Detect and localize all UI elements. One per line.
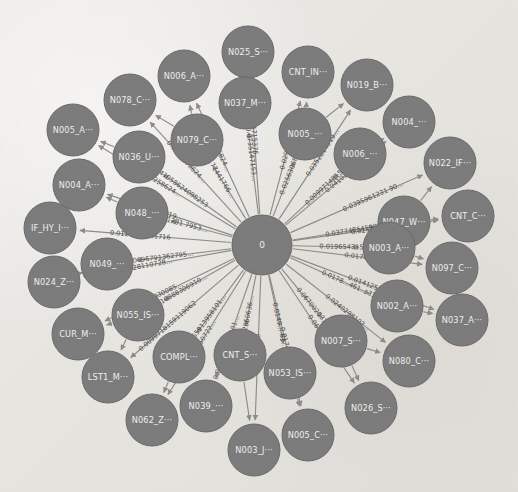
node-label: CNT_IN··· (289, 67, 328, 77)
graph-node[interactable]: N055_IS··· (112, 289, 164, 341)
graph-node[interactable]: N022_IF··· (424, 137, 476, 189)
graph-edge (106, 197, 117, 202)
node-label: N080_C··· (389, 356, 430, 366)
graph-node[interactable]: N025_S··· (222, 26, 274, 78)
graph-edge (107, 323, 113, 325)
node-label: CNT_C··· (450, 211, 486, 221)
graph-node[interactable]: N003_J··· (228, 424, 280, 476)
node-label: N039_··· (189, 401, 224, 411)
node-label: N053_IS··· (269, 368, 312, 378)
node-label: 0 (259, 240, 265, 250)
graph-edge (190, 105, 192, 113)
graph-node[interactable]: N002_A··· (371, 280, 423, 332)
node-label: N005_··· (288, 129, 323, 139)
graph-node[interactable]: CNT_S··· (214, 329, 266, 381)
node-label: N006_A··· (164, 71, 205, 81)
node-label: N005_A··· (53, 125, 94, 135)
graph-node[interactable]: N005_C··· (282, 409, 334, 461)
graph-edge (164, 382, 169, 393)
graph-node[interactable]: N037_M··· (219, 77, 271, 129)
graph-edge (156, 115, 174, 126)
graph-node[interactable]: N024_Z··· (28, 256, 80, 308)
graph-node[interactable]: N004_··· (383, 96, 435, 148)
graph-edge (121, 339, 126, 350)
node-label: N005_C··· (288, 430, 329, 440)
graph-node[interactable]: N079_C··· (171, 114, 223, 166)
graph-edge (326, 104, 343, 118)
node-label: N022_IF··· (429, 158, 471, 168)
graph-node[interactable]: LST1_M··· (82, 351, 134, 403)
graph-node[interactable]: N062_Z··· (126, 394, 178, 446)
node-label: CUR_M··· (59, 329, 97, 339)
graph-node[interactable]: N053_IS··· (264, 347, 316, 399)
graph-edge (423, 312, 432, 314)
nodes-layer[interactable]: N025_S···N006_A···CNT_IN···N019_B···N078… (24, 26, 494, 476)
graph-edge (415, 256, 424, 259)
graph-node[interactable]: CNT_IN··· (282, 46, 334, 98)
node-label: N055_IS··· (117, 310, 160, 320)
graph-hub-node[interactable]: 0 (232, 215, 292, 275)
node-label: N079_C··· (177, 135, 218, 145)
graph-node[interactable]: N003_A··· (363, 222, 415, 274)
node-label: N007_S··· (321, 336, 361, 346)
graph-node[interactable]: N006_··· (334, 128, 386, 180)
graph-edge (431, 219, 438, 220)
node-label: N025_S··· (228, 47, 268, 57)
graph-edge (383, 138, 384, 139)
node-label: N002_A··· (377, 301, 418, 311)
node-label: N078_C··· (110, 95, 151, 105)
graph-node[interactable]: N097_C··· (426, 242, 478, 294)
node-label: N003_A··· (369, 243, 410, 253)
node-label: N004_··· (392, 117, 427, 127)
graph-node[interactable]: N019_B··· (341, 59, 393, 111)
graph-node[interactable]: N007_S··· (315, 315, 367, 367)
graph-node[interactable]: COMPL··· (153, 331, 205, 383)
node-label: IF_HY_I··· (31, 223, 69, 233)
graph-node[interactable]: N006_A··· (158, 50, 210, 102)
graph-node[interactable]: N005_A··· (47, 104, 99, 156)
graph-node[interactable]: N048_··· (116, 187, 168, 239)
graph-edge (367, 349, 380, 353)
node-label: N024_Z··· (34, 277, 75, 287)
node-label: N037_A··· (442, 315, 483, 325)
node-label: LST1_M··· (88, 372, 128, 382)
graph-node[interactable]: N004_A··· (53, 159, 105, 211)
graph-node[interactable]: N026_S··· (345, 382, 397, 434)
graph-node[interactable]: IF_HY_I··· (24, 202, 76, 254)
graph-node[interactable]: N005_··· (279, 108, 331, 160)
graph-node[interactable]: CNT_C··· (442, 190, 494, 242)
graph-edge (352, 366, 359, 381)
node-label: N006_··· (343, 149, 378, 159)
graph-node[interactable]: N049_··· (81, 238, 133, 290)
node-label: COMPL··· (160, 352, 198, 362)
node-label: N062_Z··· (132, 415, 173, 425)
node-label: N019_B··· (347, 80, 388, 90)
graph-node[interactable]: N078_C··· (104, 74, 156, 126)
node-label: CNT_S··· (222, 350, 257, 360)
graph-edge (244, 382, 250, 421)
node-label: N097_C··· (432, 263, 473, 273)
node-label: N037_M··· (224, 98, 266, 108)
graph-node[interactable]: N037_A··· (436, 294, 488, 346)
node-label: N049_··· (90, 259, 125, 269)
node-label: N036_U··· (119, 152, 160, 162)
node-label: N026_S··· (351, 403, 391, 413)
graph-node[interactable]: N080_C··· (383, 335, 435, 387)
graph-edge (101, 141, 114, 146)
node-label: N048_··· (125, 208, 160, 218)
graph-edge (421, 187, 432, 201)
graph-svg[interactable]: 0.073514715376…0.0141056824…0.0296803515… (0, 0, 518, 492)
graph-canvas[interactable]: 0.073514715376…0.0141056824…0.0296803515… (0, 0, 518, 492)
graph-node[interactable]: CUR_M··· (52, 308, 104, 360)
node-label: N004_A··· (59, 180, 100, 190)
graph-node[interactable]: N036_U··· (113, 131, 165, 183)
node-label: N003_J··· (235, 445, 272, 455)
graph-node[interactable]: N039_··· (180, 380, 232, 432)
